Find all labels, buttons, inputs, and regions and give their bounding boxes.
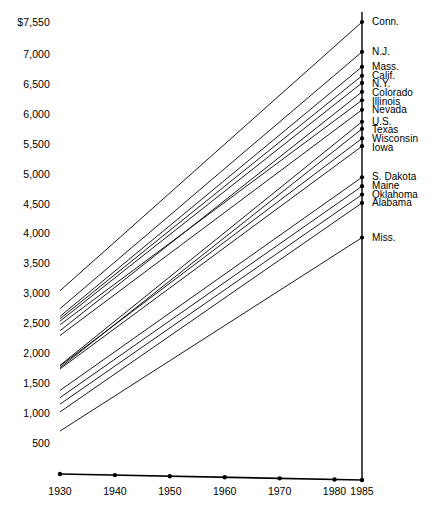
y-axis-tick-label: 3,500 xyxy=(23,258,50,269)
endpoint-dot-colorado xyxy=(360,90,364,94)
series-line-calif xyxy=(60,76,362,319)
x-tick-dot xyxy=(113,473,117,477)
endpoint-dot-n-j xyxy=(360,50,364,54)
series-line-oklahoma xyxy=(60,195,362,405)
series-line-alabama xyxy=(60,203,362,412)
series-label-n-j: N.J. xyxy=(372,47,390,57)
y-axis-tick-label: 1,000 xyxy=(23,408,50,419)
series-line-n-y xyxy=(60,83,362,321)
x-tick-dot xyxy=(360,478,364,482)
series-label-miss: Miss. xyxy=(372,233,396,243)
endpoint-dot-texas xyxy=(360,127,364,131)
y-axis-tick-label: 6,500 xyxy=(23,79,50,90)
y-axis-tick-label: 2,000 xyxy=(23,348,50,359)
y-axis-tick-label: 3,000 xyxy=(23,288,50,299)
y-axis-tick-label: 5,500 xyxy=(23,139,50,150)
y-axis-tick-label: 4,000 xyxy=(23,228,50,239)
x-tick-dot xyxy=(277,476,281,480)
series-line-mass xyxy=(60,67,362,317)
endpoint-dot-nevada xyxy=(360,108,364,112)
x-axis-tick-label: 1985 xyxy=(340,486,384,497)
x-axis-tick-label: 1970 xyxy=(258,486,302,497)
series-line-maine xyxy=(60,186,362,397)
series-line-nevada xyxy=(60,110,362,336)
x-tick-dot xyxy=(223,475,227,479)
y-axis-tick-label: 6,000 xyxy=(23,109,50,120)
y-axis-tick-label: 500 xyxy=(32,438,50,449)
endpoint-dot-miss xyxy=(360,235,364,239)
series-line-wisconsin xyxy=(60,138,362,366)
endpoint-dot-illinois xyxy=(360,98,364,102)
series-line-s-dakota xyxy=(60,177,362,390)
series-line-u-s xyxy=(60,122,362,366)
endpoint-dot-n-y xyxy=(360,81,364,85)
endpoint-dot-u-s xyxy=(360,120,364,124)
series-line-n-j xyxy=(60,52,362,309)
series-line-group xyxy=(60,22,362,431)
y-axis-tick-label: 4,500 xyxy=(23,199,50,210)
endpoint-dot-wisconsin xyxy=(360,136,364,140)
series-line-colorado xyxy=(60,92,362,331)
series-label-alabama: Alabama xyxy=(372,198,412,208)
endpoint-dot-calif xyxy=(360,74,364,78)
x-tick-dot xyxy=(332,477,336,481)
endpoint-dot-s-dakota xyxy=(360,175,364,179)
series-label-nevada: Nevada xyxy=(372,105,407,115)
series-line-illinois xyxy=(60,100,362,325)
x-tick-dot xyxy=(58,472,62,476)
x-axis-tick-label: 1950 xyxy=(148,486,192,497)
x-axis-tick-label: 1960 xyxy=(203,486,247,497)
x-tick-dot xyxy=(168,474,172,478)
x-axis-tick-label: 1940 xyxy=(93,486,137,497)
x-axis-line xyxy=(60,474,362,480)
x-axis-tick-label: 1930 xyxy=(38,486,82,497)
endpoint-dot-iowa xyxy=(360,144,364,148)
endpoint-dot-mass xyxy=(360,65,364,69)
series-line-conn xyxy=(60,22,362,291)
y-axis-tick-label: 5,000 xyxy=(23,169,50,180)
y-axis-tick-label: 1,500 xyxy=(23,378,50,389)
series-label-iowa: Iowa xyxy=(372,143,393,153)
y-axis-tick-label: 7,000 xyxy=(23,49,50,60)
endpoint-dot-conn xyxy=(360,20,364,24)
series-label-conn: Conn. xyxy=(372,17,399,27)
y-axis-tick-label: 2,500 xyxy=(23,318,50,329)
endpoint-dot-oklahoma xyxy=(360,192,364,196)
series-line-iowa xyxy=(60,146,362,369)
y-axis-tick-label: $7,550 xyxy=(17,17,50,28)
endpoint-dot-maine xyxy=(360,184,364,188)
endpoint-dot-alabama xyxy=(360,201,364,205)
line-chart: $7,5507,0006,5006,0005,5005,0004,5004,00… xyxy=(0,0,437,515)
series-line-miss xyxy=(60,238,362,431)
